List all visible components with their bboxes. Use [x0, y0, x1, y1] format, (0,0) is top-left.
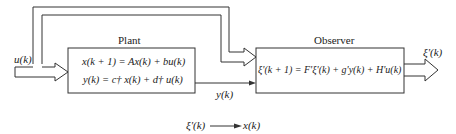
plant-input-arrow	[15, 63, 68, 81]
observer-title: Observer	[314, 34, 354, 46]
plant-output-label: y(k)	[216, 88, 233, 100]
observer-input-arrowhead	[244, 48, 256, 66]
plant-state-equation: x(k + 1) = Ax(k) + bu(k)	[82, 56, 185, 67]
observer-equation: ξ'(k + 1) = F'ξ'(k) + g'y(k) + H'u(k)	[258, 64, 401, 75]
relation-from-label: ξ'(k)	[186, 119, 205, 131]
plant-output-equation: y(k) = c† x(k) + d† u(k)	[83, 74, 183, 85]
plant-title: Plant	[118, 34, 141, 46]
plant-block	[68, 48, 195, 93]
relation-arrowhead	[234, 124, 242, 129]
observer-output-label: ξ'(k)	[423, 46, 442, 58]
input-signal-label: u(k)	[14, 53, 32, 65]
plant-output-arrowhead	[249, 81, 256, 86]
relation-to-label: x(k)	[243, 119, 260, 131]
observer-output-arrow	[404, 59, 438, 81]
